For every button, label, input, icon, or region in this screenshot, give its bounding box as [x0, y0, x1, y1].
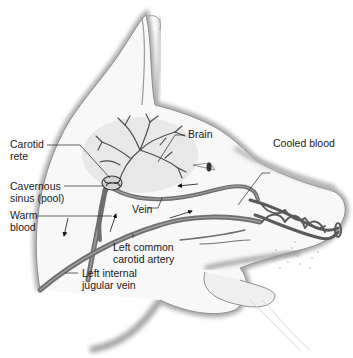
label-cooled-blood: Cooled blood	[273, 137, 335, 149]
label-warm-blood: Warm blood	[10, 209, 38, 233]
label-vein: Vein	[132, 203, 152, 215]
carotid-rete	[102, 176, 122, 190]
brain	[82, 117, 198, 193]
dog-head-diagram	[0, 0, 353, 358]
label-cavernous-sinus: Cavernous sinus (pool)	[10, 180, 64, 204]
label-carotid-rete: Carotid rete	[10, 138, 44, 162]
label-left-internal-jugular-vein: Left internal jugular vein	[82, 267, 137, 291]
label-brain: Brain	[188, 128, 213, 140]
label-left-common-carotid-artery: Left common carotid artery	[113, 241, 174, 265]
head-outline	[36, 15, 345, 350]
